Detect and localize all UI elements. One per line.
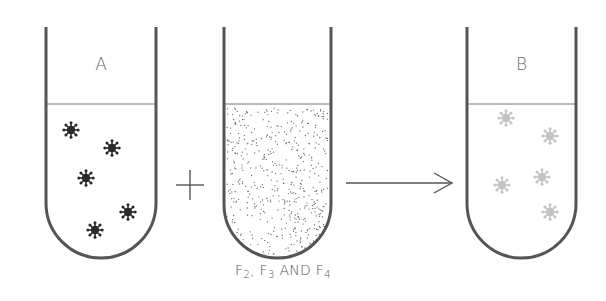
virus-particle-icon xyxy=(541,127,558,144)
stipple-fill xyxy=(226,108,328,257)
virus-particle-icon xyxy=(62,121,79,138)
caption-part: , F xyxy=(250,262,268,278)
caption-fractions: F2, F3 AND F4 xyxy=(218,262,348,280)
caption-sub: 4 xyxy=(324,269,331,280)
tube-label-A: A xyxy=(95,54,107,74)
tube-label-B: B xyxy=(516,54,527,74)
virus-particle-icon xyxy=(77,169,94,186)
test-tube-A: A xyxy=(46,27,156,258)
virus-particle-icon xyxy=(103,139,120,156)
caption-part: AND F xyxy=(275,262,325,278)
tube-outline xyxy=(224,27,331,258)
virus-particle-icon xyxy=(497,109,514,126)
test-tube-reagent xyxy=(224,27,331,258)
plus-icon xyxy=(176,170,204,200)
virus-particle-icon xyxy=(541,203,558,220)
caption-sub: 3 xyxy=(268,269,275,280)
virus-particle-icon xyxy=(86,221,103,238)
virus-particle-icon xyxy=(119,203,136,220)
test-tube-B: B xyxy=(467,27,576,258)
virus-particle-icon xyxy=(493,176,510,193)
diagram-canvas: AB F2, F3 AND F4 xyxy=(0,0,606,301)
arrow-right-icon xyxy=(346,173,452,193)
virus-particle-icon xyxy=(533,168,550,185)
